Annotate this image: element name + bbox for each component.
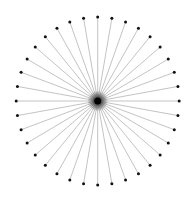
endpoint-dot	[55, 27, 58, 30]
endpoint-dot	[110, 182, 113, 185]
endpoint-dot	[159, 46, 162, 49]
endpoint-dot	[137, 172, 140, 175]
endpoint-dot	[20, 71, 23, 74]
endpoint-dot	[178, 100, 181, 103]
endpoint-dot	[96, 16, 99, 19]
endpoint-dot	[149, 35, 152, 38]
endpoint-dot	[15, 100, 18, 103]
endpoint-dot	[167, 58, 170, 61]
endpoint-dot	[176, 85, 179, 88]
endpoint-dot	[124, 178, 127, 181]
center-hub	[94, 98, 101, 105]
endpoint-dot	[20, 128, 23, 131]
endpoint-dot	[16, 85, 19, 88]
endpoint-dot	[68, 21, 71, 24]
endpoint-dot	[55, 172, 58, 175]
endpoint-dot	[44, 164, 47, 167]
endpoint-dot	[137, 27, 140, 30]
endpoint-dot	[82, 182, 85, 185]
endpoint-dot	[173, 71, 176, 74]
endpoint-dot	[16, 114, 19, 117]
endpoint-dot	[34, 153, 37, 156]
endpoint-dot	[44, 35, 47, 38]
endpoint-dot	[96, 184, 99, 187]
endpoint-dot	[26, 58, 29, 61]
endpoint-dot	[159, 153, 162, 156]
endpoint-dot	[68, 178, 71, 181]
endpoint-dot	[34, 46, 37, 49]
endpoint-dot	[173, 128, 176, 131]
endpoint-dot	[149, 164, 152, 167]
endpoint-dot	[110, 17, 113, 20]
endpoint-dot	[176, 114, 179, 117]
endpoint-dot	[82, 17, 85, 20]
endpoint-dot	[26, 142, 29, 145]
radial-burst-diagram	[0, 0, 193, 198]
endpoint-dot	[167, 142, 170, 145]
endpoint-dot	[124, 21, 127, 24]
